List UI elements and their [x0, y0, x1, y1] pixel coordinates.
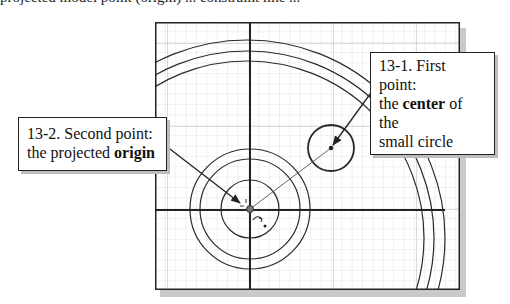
callout-13-1-line3: small circle: [379, 132, 486, 151]
emphasis-origin: origin: [114, 144, 155, 161]
emphasis-center: center: [403, 95, 446, 112]
callout-first-point: 13-1. First point: the center of the sma…: [370, 52, 495, 155]
callout-13-2-line1: 13-2. Second point:: [27, 124, 158, 143]
small-circle-center-point: [329, 146, 333, 150]
origin-point: [247, 206, 254, 213]
cropped-caption-text: projected model point (origin) ... const…: [0, 0, 510, 6]
callout-second-point: 13-2. Second point: the projected origin: [18, 117, 167, 171]
text: the: [379, 95, 403, 112]
callout-13-1-line2: the center of the: [379, 94, 486, 132]
callout-13-2-line2: the projected origin: [27, 143, 158, 162]
callout-13-1-line1: 13-1. First point:: [379, 56, 486, 94]
text: the projected: [27, 144, 114, 161]
